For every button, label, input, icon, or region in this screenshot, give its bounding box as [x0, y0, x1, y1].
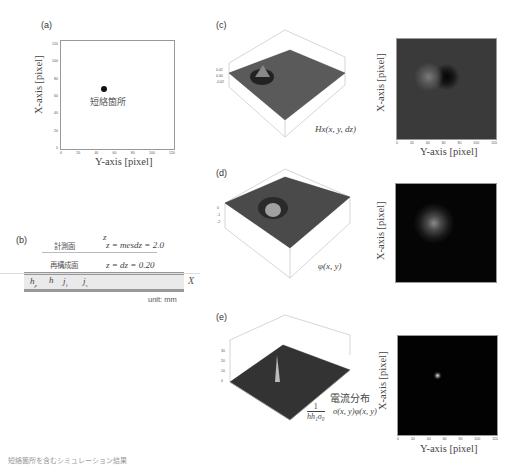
svg-text:-2: -2: [217, 220, 220, 224]
panel-e-fraction: 1 hh₁σ₀: [307, 402, 325, 421]
panel-c-heat-xlabel: Y-axis [pixel]: [420, 146, 477, 157]
panel-c-heatmap: [396, 38, 497, 140]
panel-c-surface-plot: 0.02 0.00 -0.02: [215, 25, 365, 140]
svg-text:0: 0: [221, 379, 223, 383]
figure-caption: 短絡箇所を含むシミュレーション結果: [8, 455, 127, 465]
hp-label: hp: [30, 276, 37, 288]
panel-a-plot: 短絡箇所: [60, 40, 175, 150]
panel-b-label: (b): [16, 235, 27, 245]
unit-label: unit: mm: [148, 295, 177, 304]
short-circuit-label: 短絡箇所: [90, 95, 126, 108]
svg-text:-0.02: -0.02: [216, 80, 224, 84]
panel-d-heat-ylabel: X-axis [pixel]: [375, 201, 386, 260]
panel-d-surface-label: φ(x, y): [318, 261, 341, 271]
panel-c-heat-ylabel: X-axis [pixel]: [375, 53, 386, 112]
svg-text:30: 30: [221, 349, 225, 353]
panel-e-heatmap: [397, 335, 498, 436]
panel-c-surface-label: Hx(x, y, dz): [315, 124, 356, 134]
h-label: h: [49, 275, 54, 285]
svg-text:0.02: 0.02: [216, 68, 223, 72]
panel-a-label: (a): [41, 20, 52, 30]
x-axis-line: [0, 273, 200, 274]
panel-a-xlabel: Y-axis [pixel]: [95, 156, 152, 167]
recon-plane-label: 再構成面: [50, 259, 78, 270]
panel-e-surface-expr: σ(x, y)φ(x, y): [333, 406, 377, 416]
svg-text:20: 20: [221, 359, 225, 363]
panel-d-heatmap: [395, 183, 497, 283]
layer-middle: [24, 275, 184, 289]
svg-text:-1: -1: [217, 213, 220, 217]
measure-plane-label: 計測面: [54, 240, 75, 251]
panel-a-ylabel: X-axis [pixel]: [33, 55, 44, 114]
measure-plane-line: [42, 252, 157, 253]
panel-c-xticks: 020406080100120: [396, 141, 497, 145]
short-circuit-marker: [101, 86, 107, 92]
x-axis-label: X: [188, 275, 194, 286]
layer-bottom: [24, 289, 184, 292]
js-label: js: [83, 276, 87, 288]
measure-plane-eq: z = mesdz = 2.0: [106, 240, 164, 250]
svg-text:10: 10: [221, 369, 225, 373]
panel-e-xticks: 020406080100120: [397, 437, 498, 441]
svg-text:0.00: 0.00: [216, 74, 223, 78]
panel-e-heat-xlabel: Y-axis [pixel]: [420, 443, 477, 454]
svg-text:0: 0: [217, 206, 219, 210]
panel-a-yticks: 020406080100120: [52, 42, 58, 150]
recon-plane-eq: z = dz = 0.20: [106, 260, 154, 270]
panel-e-heat-ylabel: X-axis [pixel]: [377, 351, 388, 410]
panel-d-surface-plot: 0 -1 -2: [215, 163, 365, 283]
j1-label: j1: [63, 276, 68, 288]
panel-a-xticks: 020406080100120: [60, 151, 175, 155]
panel-e-surface-title: 電流分布: [330, 390, 370, 405]
